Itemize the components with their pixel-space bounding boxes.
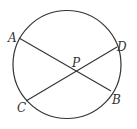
point-label-b: B (111, 93, 121, 107)
circle-chords-diagram: A B C D P (0, 0, 137, 129)
chord-ab (19, 38, 111, 91)
point-label-p: P (71, 56, 81, 70)
circle (13, 11, 121, 119)
point-label-d: D (116, 40, 127, 54)
diagram-canvas: A B C D P (0, 0, 137, 129)
point-label-a: A (7, 31, 17, 45)
point-label-c: C (17, 101, 26, 115)
